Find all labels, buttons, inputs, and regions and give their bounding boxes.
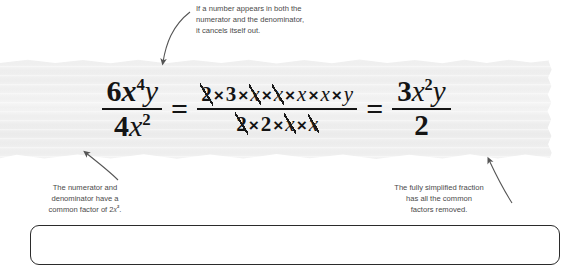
equals-sign-2: =	[357, 92, 392, 126]
left-den-variable-x: x	[129, 109, 142, 142]
annotation-bottom-left-line-3-suffix: .	[119, 205, 121, 214]
annotation-bottom-left-line-1: The numerator and	[22, 183, 148, 194]
left-num-variable-y: y	[145, 74, 158, 107]
middle-denominator-cancelled-4: x	[309, 113, 318, 136]
middle-numerator-times-6: ×	[330, 85, 344, 105]
middle-numerator-token-4-variable: x	[274, 82, 283, 106]
annotation-bottom-right-line-1: The fully simplified fraction	[372, 183, 506, 194]
middle-denominator-times-2: ×	[271, 115, 285, 135]
left-num-coefficient: 6	[106, 74, 121, 107]
annotation-bottom-left-line-2: denominator have a	[22, 194, 148, 205]
middle-denominator-cancelled-1: 2	[236, 113, 247, 136]
right-fraction-numerator: 3x2y	[392, 76, 450, 108]
middle-numerator-times-1: ×	[212, 85, 226, 105]
right-num-variable-y: y	[433, 75, 446, 107]
annotation-bottom-right-line-2: has all the common	[372, 194, 506, 205]
middle-denominator-token-3-variable: x	[285, 112, 294, 136]
middle-numerator-token-7-variable: y	[344, 82, 353, 106]
annotation-top: If a number appears in both the numerato…	[196, 4, 346, 36]
middle-numerator-token-5-variable: x	[297, 82, 306, 106]
right-num-x-exponent: 2	[425, 76, 433, 94]
middle-denominator-times-3: ×	[295, 115, 309, 135]
middle-denominator-cancelled-3: x	[285, 113, 294, 136]
middle-numerator-times-5: ×	[306, 85, 320, 105]
middle-numerator-token-2-number: 3	[226, 82, 237, 106]
left-fraction-denominator: 4x2	[110, 110, 155, 143]
right-fraction-denominator: 2	[409, 110, 434, 142]
bottom-callout-box	[30, 225, 560, 265]
middle-numerator-token-3-variable: x	[250, 82, 259, 106]
arrow-top-to-cancelled-two	[163, 12, 190, 62]
middle-numerator-token-1-number: 2	[201, 82, 212, 106]
middle-denominator-token-1-number: 2	[236, 112, 247, 136]
middle-numerator-times-4: ×	[283, 85, 297, 105]
annotation-bottom-left-line-3-prefix: common factor of 2	[49, 205, 114, 214]
middle-numerator-cancelled-4: x	[274, 83, 283, 106]
middle-denominator-token-2-number: 2	[261, 112, 272, 136]
middle-numerator-times-3: ×	[260, 85, 274, 105]
annotation-top-line-2: numerator and the denominator,	[196, 15, 346, 26]
left-den-x-exponent: 2	[142, 110, 150, 129]
right-num-coefficient: 3	[397, 75, 412, 107]
annotation-bottom-left-line-3: common factor of 2x2.	[22, 205, 148, 216]
middle-fraction-denominator: 2×2×x×x	[232, 110, 322, 138]
left-num-variable-x: x	[121, 74, 136, 107]
left-num-x-exponent: 4	[136, 75, 144, 94]
left-fraction: 6x4y 4x2	[102, 75, 162, 144]
middle-numerator-cancelled-1: 2	[201, 83, 212, 106]
annotation-top-line-1: If a number appears in both the	[196, 4, 346, 15]
middle-numerator-cancelled-3: x	[250, 83, 259, 106]
annotation-bottom-left: The numerator and denominator have a com…	[22, 183, 148, 215]
equals-sign-1: =	[162, 92, 197, 126]
equation-container: 6x4y 4x2 = 2×3×x×x×x×x×y 2×2×x×x = 3x2y …	[0, 57, 553, 161]
left-den-coefficient: 4	[114, 109, 129, 142]
middle-fraction: 2×3×x×x×x×x×y 2×2×x×x	[197, 81, 357, 137]
middle-numerator-token-6-variable: x	[320, 82, 329, 106]
annotation-bottom-right: The fully simplified fraction has all th…	[372, 183, 506, 215]
middle-fraction-numerator: 2×3×x×x×x×x×y	[197, 81, 357, 108]
middle-numerator-times-2: ×	[236, 85, 250, 105]
middle-denominator-token-4-variable: x	[309, 112, 318, 136]
left-fraction-numerator: 6x4y	[102, 75, 162, 108]
middle-denominator-times-1: ×	[247, 115, 261, 135]
right-num-variable-x: x	[412, 75, 425, 107]
annotation-top-line-3: it cancels itself out.	[196, 26, 346, 37]
right-fraction: 3x2y 2	[392, 76, 450, 143]
annotation-bottom-right-line-3: factors removed.	[372, 205, 506, 216]
